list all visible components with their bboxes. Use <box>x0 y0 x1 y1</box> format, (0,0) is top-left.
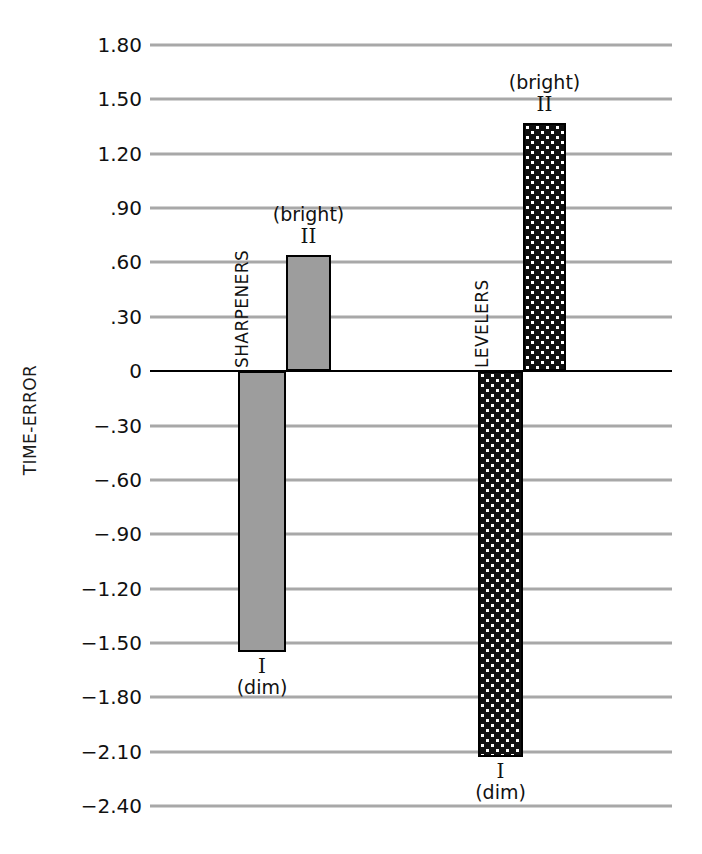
bar-roman-label: I <box>202 655 322 677</box>
bar-levelers-ii <box>523 123 566 371</box>
bar-annotation-levelers-ii: (bright)II <box>485 72 605 116</box>
bar-condition-label: (dim) <box>441 782 561 803</box>
y-axis-tick-label: 1.80 <box>58 33 142 57</box>
gridline <box>150 44 672 47</box>
y-axis-title: TIME-ERROR <box>20 320 40 520</box>
gridline <box>150 424 672 427</box>
group-label-levelers: LEVELERS <box>472 279 492 368</box>
group-label-sharpeners: SHARPENERS <box>232 250 252 368</box>
y-axis-tick-label: −2.10 <box>58 740 142 764</box>
y-axis-tick-label: .90 <box>58 196 142 220</box>
time-error-bar-chart: TIME-ERROR 1.801.501.20.90.60.300−.30−.6… <box>0 0 702 854</box>
bar-annotation-levelers-i: I(dim) <box>441 760 561 804</box>
y-axis-tick-label: −.90 <box>58 522 142 546</box>
y-axis-tick-label: −1.50 <box>58 631 142 655</box>
bar-sharpeners-i <box>238 371 286 652</box>
bar-levelers-i <box>478 371 523 757</box>
y-axis-tick-labels: 1.801.501.20.90.60.300−.30−.60−.90−1.20−… <box>58 0 142 854</box>
y-axis-tick-label: −1.20 <box>58 577 142 601</box>
bar-condition-label: (dim) <box>202 677 322 698</box>
gridline <box>150 315 672 318</box>
bar-condition-label: (bright) <box>485 72 605 93</box>
y-axis-tick-label: −.30 <box>58 414 142 438</box>
gridline <box>150 261 672 264</box>
bar-annotation-sharpeners-ii: (bright)II <box>249 204 369 248</box>
zero-axis-line <box>150 370 672 372</box>
y-axis-tick-label: −2.40 <box>58 794 142 818</box>
gridline <box>150 805 672 808</box>
gridline <box>150 533 672 536</box>
y-axis-tick-label: 1.50 <box>58 87 142 111</box>
bar-roman-label: II <box>249 225 369 247</box>
y-axis-tick-label: −1.80 <box>58 685 142 709</box>
y-axis-tick-label: .60 <box>58 250 142 274</box>
bar-roman-label: II <box>485 93 605 115</box>
gridline <box>150 478 672 481</box>
y-axis-tick-label: −.60 <box>58 468 142 492</box>
y-axis-tick-label: .30 <box>58 305 142 329</box>
gridline <box>150 207 672 210</box>
bar-roman-label: I <box>441 760 561 782</box>
bar-annotation-sharpeners-i: I(dim) <box>202 655 322 699</box>
bar-condition-label: (bright) <box>249 204 369 225</box>
gridline <box>150 152 672 155</box>
y-axis-tick-label: 0 <box>58 359 142 383</box>
bar-sharpeners-ii <box>286 255 331 371</box>
y-axis-tick-label: 1.20 <box>58 142 142 166</box>
gridline <box>150 641 672 644</box>
gridline <box>150 587 672 590</box>
gridline <box>150 750 672 753</box>
